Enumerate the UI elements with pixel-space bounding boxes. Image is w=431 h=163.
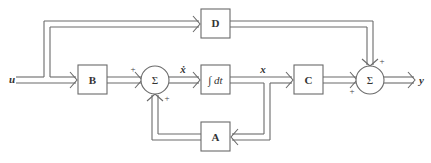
input-u-label: u bbox=[9, 73, 15, 85]
block-c-label: C bbox=[305, 74, 313, 86]
state-derivative-label: ẋ bbox=[179, 63, 186, 75]
block-integrator: ∫ dt bbox=[201, 65, 230, 94]
sum2-symbol: Σ bbox=[367, 74, 373, 86]
block-d: D bbox=[201, 9, 230, 38]
block-d-label: D bbox=[212, 17, 220, 29]
block-c: C bbox=[294, 65, 323, 94]
sum1-sign-a: + bbox=[164, 93, 169, 103]
sum1-sign-b: + bbox=[130, 64, 135, 74]
block-a: A bbox=[201, 122, 230, 151]
block-integrator-label: ∫ dt bbox=[207, 74, 223, 87]
block-b: B bbox=[78, 65, 107, 94]
d-to-sum2-wire bbox=[230, 21, 378, 66]
output-y-label: y bbox=[417, 74, 424, 86]
b-to-sum1-wire bbox=[107, 72, 142, 88]
a-to-sum1-wire bbox=[147, 94, 201, 140]
block-a-label: A bbox=[212, 131, 220, 143]
block-diagram: D B ∫ dt C A Σ + + Σ + + u y ẋ x bbox=[0, 0, 431, 163]
sum2-to-y-wire bbox=[384, 72, 415, 88]
sum2-sign-c: + bbox=[349, 86, 354, 96]
sum2-sign-d: + bbox=[379, 56, 384, 66]
state-x-label: x bbox=[259, 63, 266, 75]
block-b-label: B bbox=[89, 74, 97, 86]
sum1-symbol: Σ bbox=[152, 74, 158, 86]
integrator-to-c-wire bbox=[230, 72, 293, 145]
